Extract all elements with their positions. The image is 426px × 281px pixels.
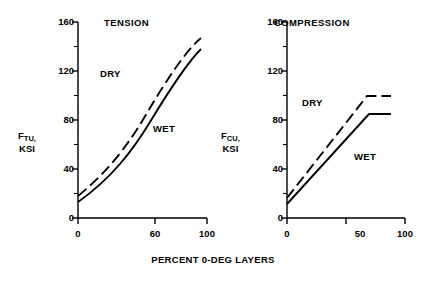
chart-panel-compression: COMPRESSION FCU, KSI 160 120 80 40 0 0 5… [213, 0, 426, 250]
plot-area-compression [213, 0, 426, 250]
y-major-ticks-compression [281, 22, 287, 218]
x-axis-caption: PERCENT 0-DEG LAYERS [0, 254, 426, 265]
chart-panel-tension: TENSION FTU, KSI 160 120 80 40 0 0 60 10… [0, 0, 213, 250]
plot-area-tension [0, 0, 213, 250]
figure-root: TENSION FTU, KSI 160 120 80 40 0 0 60 10… [0, 0, 426, 281]
axis-lines-compression [287, 22, 405, 218]
series-wet-compression [287, 114, 391, 204]
x-major-ticks-tension [78, 218, 207, 224]
series-dry-tension [78, 38, 201, 196]
x-major-ticks-compression [287, 218, 405, 224]
y-major-ticks-tension [72, 22, 78, 218]
